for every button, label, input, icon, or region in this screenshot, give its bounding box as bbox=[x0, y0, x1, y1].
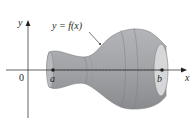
interval-end-label: b bbox=[157, 73, 162, 84]
y-axis-arrow-icon bbox=[26, 20, 31, 26]
curve-label-leader bbox=[89, 32, 99, 43]
point-a bbox=[51, 68, 55, 72]
interval-start-label: a bbox=[50, 73, 55, 84]
point-b bbox=[160, 68, 164, 72]
curve-label-leader-dot bbox=[99, 43, 101, 45]
origin-label: 0 bbox=[19, 72, 24, 83]
x-axis-label: x bbox=[184, 72, 190, 83]
y-axis-label: y bbox=[17, 17, 23, 28]
solid-body bbox=[47, 29, 166, 109]
solid-of-revolution-diagram: y = f(x) y x 0 a b bbox=[0, 0, 195, 124]
curve-label: y = f(x) bbox=[51, 20, 83, 32]
